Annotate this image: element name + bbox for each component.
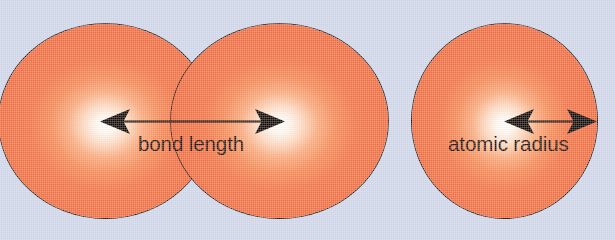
atom-sphere-single bbox=[411, 23, 598, 219]
atomic-radius-diagram: bond length atomic radius bbox=[0, 0, 615, 240]
atom-sphere-single-gradient bbox=[412, 24, 597, 218]
atom-sphere-right-gradient bbox=[171, 24, 388, 218]
atom-sphere-right bbox=[170, 23, 389, 219]
atomic-radius-label: atomic radius bbox=[448, 134, 569, 155]
bond-length-label: bond length bbox=[138, 134, 244, 155]
